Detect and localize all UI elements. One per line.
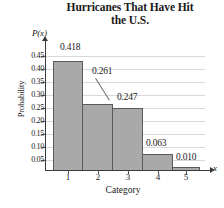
y-axis-arrow (42, 36, 48, 41)
chart-title-line-2: the U.S. (40, 14, 220, 27)
data-label-category-1: 0.418 (60, 42, 80, 52)
x-tick-label: 5 (171, 172, 201, 182)
data-label-category-2: 0.261 (92, 66, 112, 76)
x-tick-label: 2 (83, 172, 113, 182)
bar-category-1 (53, 61, 83, 171)
x-tick-label: 1 (53, 172, 83, 182)
bar-category-3 (112, 108, 143, 171)
gridline-045 (45, 56, 205, 57)
data-label-category-4: 0.063 (146, 138, 166, 148)
chart-title-line-1: Hurricanes That Have Hit (67, 1, 194, 13)
y-tick-labels: 0.45 0.40 0.35 0.30 0.25 0.20 0.15 0.10 … (14, 0, 44, 208)
hurricane-probability-chart: Hurricanes That Have Hit the U.S. P(x) P… (0, 0, 224, 208)
bar-category-4 (142, 154, 173, 171)
x-axis-label: Category (45, 185, 201, 195)
chart-title: Hurricanes That Have Hit the U.S. (40, 1, 220, 27)
x-axis-arrow (210, 167, 215, 173)
bar-category-2 (82, 104, 113, 171)
x-tick-label: 4 (143, 172, 173, 182)
data-label-category-3: 0.247 (117, 92, 137, 102)
y-axis-line (45, 40, 46, 171)
x-tick-label: 3 (113, 172, 143, 182)
data-label-category-5: 0.010 (176, 152, 196, 162)
